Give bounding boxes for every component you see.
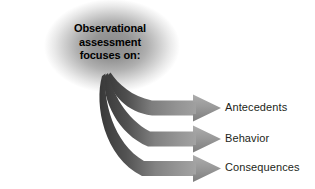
label-consequences: Consequences	[225, 161, 300, 173]
heading-line-2: assessment	[47, 36, 173, 50]
label-behavior: Behavior	[225, 132, 269, 144]
arrow-consequences-head	[193, 155, 221, 182]
heading-line-1: Observational	[47, 22, 173, 36]
page-title: Observational assessment focuses on:	[47, 22, 173, 63]
arrow-antecedents-head	[193, 95, 221, 122]
heading-line-3: focuses on:	[47, 49, 173, 63]
observational-assessment-diagram: Observational assessment focuses on: Ant…	[0, 0, 315, 189]
label-antecedents: Antecedents	[225, 101, 287, 113]
arrow-behavior-head	[193, 126, 221, 153]
